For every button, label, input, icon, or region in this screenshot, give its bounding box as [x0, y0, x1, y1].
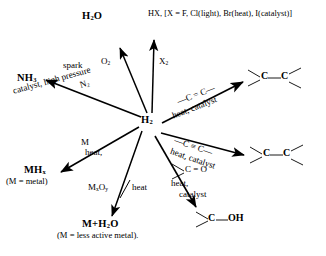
metal-heat-label: heat,	[85, 148, 102, 157]
alkane-bottom-carbon-1: C	[263, 148, 270, 159]
alcohol-carbon: C	[208, 213, 215, 224]
arrow-to-ammonia	[46, 80, 141, 117]
alkane-top-carbon-2: C	[281, 71, 288, 82]
arrow-to-metal-plus-water	[112, 131, 142, 216]
structure-alkane-bottom	[250, 145, 303, 165]
reagent-oxygen-label: O2	[101, 57, 110, 67]
arrow-to-water	[120, 48, 147, 113]
product-metal-plus-water-label: M+H2O	[82, 218, 119, 230]
product-metal-hydride-label: MHx	[24, 164, 46, 176]
carbonyl-heat-label: heat,	[171, 179, 188, 188]
arrow-layer	[0, 0, 326, 256]
carbonyl-catalyst-label: catalyst	[179, 190, 207, 199]
product-water-label: H2O	[82, 10, 102, 22]
center-species-h2: H2	[141, 114, 153, 126]
structure-alkane-top	[248, 68, 301, 88]
alkane-top-carbon-1: C	[261, 71, 268, 82]
metal-hydride-note: (M = metal)	[6, 177, 48, 186]
product-hydrogen-halide-label: HX, [X = F, Cl(light), Br(heat), I(catal…	[148, 10, 292, 19]
alkane-bottom-carbon-2: C	[283, 148, 290, 159]
metal-oxide-heat-label: heat	[132, 183, 147, 192]
diagram-canvas: H2O HX, [X = F, Cl(light), Br(heat), I(c…	[0, 0, 326, 256]
reagent-halogen-label: X2	[159, 57, 168, 67]
arrow-to-hydrogen-halide	[152, 40, 154, 113]
metal-plus-water-note: (M = less active metal).	[57, 231, 138, 240]
reagent-metal-oxide-label: MxOy	[88, 183, 108, 193]
alcohol-hydroxyl: OH	[228, 213, 244, 224]
reagent-carbonyl-label: C = O	[185, 165, 207, 174]
